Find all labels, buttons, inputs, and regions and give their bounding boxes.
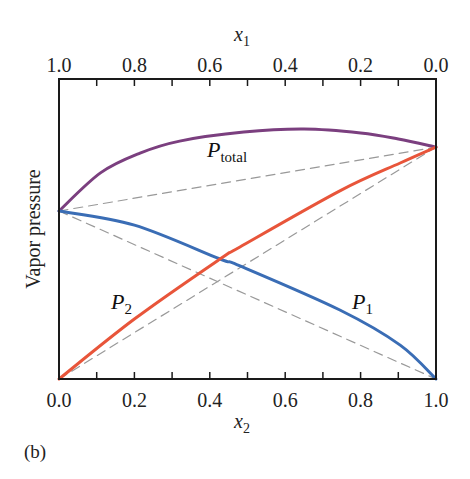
p2-label: P2 <box>110 289 132 317</box>
top-tick-label: 0.4 <box>273 54 298 76</box>
top-axis-title: x1 <box>233 23 250 49</box>
bottom-tick-label: 0.4 <box>197 389 222 411</box>
top-tick-label: 0.0 <box>424 54 449 76</box>
p1-label: P1 <box>351 289 373 317</box>
panel-label: (b) <box>24 441 46 463</box>
bottom-tick-label: 0.0 <box>47 389 72 411</box>
chart-root: 0.00.20.40.60.81.01.00.80.60.40.20.0 x1 … <box>0 0 470 479</box>
bottom-tick-label: 0.6 <box>273 389 298 411</box>
raoult-ideal-lines <box>59 147 436 379</box>
bottom-tick-label: 0.8 <box>348 389 373 411</box>
y-axis-title: Vapor pressure <box>22 169 45 289</box>
bottom-tick-label: 0.2 <box>122 389 147 411</box>
top-tick-label: 0.6 <box>197 54 222 76</box>
series-p-total <box>59 129 436 211</box>
top-tick-label: 1.0 <box>47 54 72 76</box>
bottom-tick-label: 1.0 <box>424 389 449 411</box>
vapor-pressure-curves <box>59 129 436 379</box>
series-p-total-ideal-raoult <box>59 147 436 211</box>
ptotal-label: Ptotal <box>206 137 247 165</box>
top-tick-label: 0.8 <box>122 54 147 76</box>
bottom-axis-title: x2 <box>233 410 250 436</box>
series-p2-ideal-raoult <box>59 147 436 379</box>
top-tick-label: 0.2 <box>348 54 373 76</box>
